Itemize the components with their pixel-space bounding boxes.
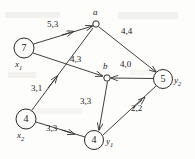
edge-x1-a-midarrow [62, 33, 70, 36]
edge-y1-y2-midarrow [133, 100, 142, 108]
node-b[interactable] [104, 75, 110, 81]
edge-x2-y1 [36, 122, 85, 137]
edge-y1-y2 [103, 86, 156, 135]
node-x1[interactable] [14, 38, 34, 58]
node-y2[interactable] [154, 70, 173, 89]
node-a[interactable] [93, 21, 99, 27]
edge-a-y2 [99, 27, 156, 72]
edge-b-y1 [99, 82, 108, 131]
flow-network-figure: 7 4 5 4 x1 x2 a b y2 y1 5,3 4,3 3,1 3,3 … [0, 0, 195, 159]
edge-x2-a-midarrow [48, 79, 55, 88]
edge-x1-b [33, 53, 103, 76]
node-y1[interactable] [85, 131, 104, 150]
node-x2[interactable] [16, 109, 36, 129]
edge-y2-b [111, 78, 153, 79]
edge-x2-a [32, 28, 93, 110]
graph-canvas [0, 0, 195, 159]
edge-x2-y1-midarrow [62, 130, 71, 133]
